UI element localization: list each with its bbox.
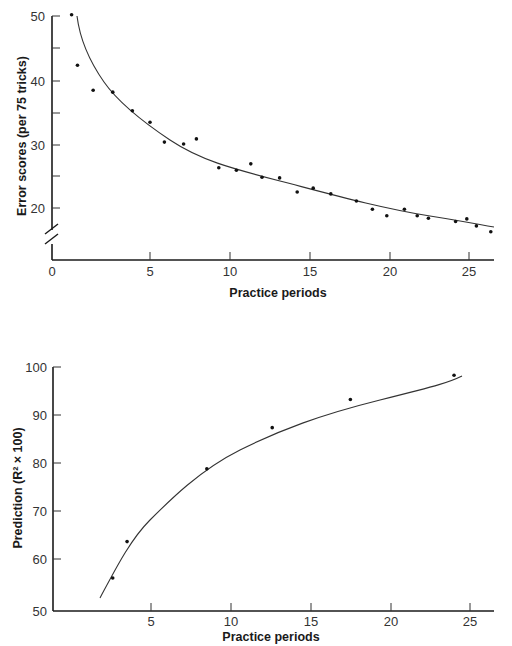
data-point xyxy=(91,88,95,92)
top-y-tick-label: 20 xyxy=(31,201,45,216)
top-y-tick-label: 50 xyxy=(31,9,45,24)
bottom-y-axis-title: Prediction (R² × 100) xyxy=(11,427,25,548)
data-point xyxy=(465,217,469,221)
data-point xyxy=(311,186,315,190)
data-point xyxy=(249,162,253,166)
top-x-tick-label: 5 xyxy=(146,264,153,279)
data-point xyxy=(270,426,274,430)
data-point xyxy=(70,13,74,17)
top-x-tick-label: 0 xyxy=(48,264,55,279)
data-point xyxy=(385,214,389,218)
data-point xyxy=(111,576,115,580)
data-point xyxy=(452,373,456,377)
data-point xyxy=(205,467,209,471)
top-y-axis-title: Error scores (per 75 tricks) xyxy=(15,56,29,216)
data-point xyxy=(403,207,407,211)
data-point xyxy=(76,63,80,67)
bottom-x-ticks: 5 10 15 20 25 xyxy=(147,603,477,629)
data-point xyxy=(195,137,199,141)
data-point xyxy=(295,190,299,194)
top-x-axis-title: Practice periods xyxy=(229,286,326,300)
bottom-chart: 100 90 80 70 60 50 5 10 15 20 25 Practic… xyxy=(11,360,494,644)
data-point xyxy=(131,109,135,113)
bottom-x-tick-label: 5 xyxy=(147,614,154,629)
bottom-y-tick-label: 80 xyxy=(33,456,47,471)
bottom-y-tick-label: 50 xyxy=(33,604,47,619)
data-point xyxy=(260,175,264,179)
bottom-x-tick-label: 10 xyxy=(224,614,238,629)
top-chart: 50 40 30 20 0 5 10 15 20 25 Practice per… xyxy=(15,9,494,300)
data-point xyxy=(475,224,479,228)
bottom-x-axis-title: Practice periods xyxy=(222,630,319,644)
data-point xyxy=(415,214,419,218)
data-point xyxy=(278,176,282,180)
data-point xyxy=(148,120,152,124)
bottom-y-tick-label: 100 xyxy=(25,360,47,375)
data-point xyxy=(329,192,333,196)
bottom-y-tick-label: 60 xyxy=(33,552,47,567)
top-x-tick-label: 20 xyxy=(383,264,397,279)
bottom-y-tick-label: 70 xyxy=(33,504,47,519)
data-point xyxy=(111,90,115,94)
bottom-y-tick-label: 90 xyxy=(33,408,47,423)
data-point xyxy=(489,230,493,234)
data-point xyxy=(217,166,221,170)
data-point xyxy=(182,142,186,146)
top-y-tick-label: 30 xyxy=(31,138,45,153)
top-x-tick-label: 10 xyxy=(223,264,237,279)
bottom-data-points xyxy=(111,373,456,579)
top-y-ticks: 50 40 30 20 xyxy=(31,9,60,216)
figure: 50 40 30 20 0 5 10 15 20 25 Practice per… xyxy=(0,0,512,646)
bottom-x-tick-label: 25 xyxy=(463,614,477,629)
data-point xyxy=(349,398,353,402)
bottom-x-tick-label: 15 xyxy=(304,614,318,629)
bottom-y-ticks: 100 90 80 70 60 50 xyxy=(25,360,61,619)
data-point xyxy=(235,168,239,172)
top-fit-curve xyxy=(77,16,494,227)
top-x-tick-label: 15 xyxy=(303,264,317,279)
data-point xyxy=(454,220,458,224)
data-point xyxy=(371,207,375,211)
top-data-points xyxy=(70,13,493,234)
bottom-x-tick-label: 20 xyxy=(384,614,398,629)
data-point xyxy=(125,540,129,544)
data-point xyxy=(427,216,431,220)
data-point xyxy=(355,199,359,203)
top-x-tick-label: 25 xyxy=(462,264,476,279)
data-point xyxy=(163,140,167,144)
top-x-ticks: 0 5 10 15 20 25 xyxy=(48,252,476,279)
top-y-tick-label: 40 xyxy=(31,74,45,89)
bottom-fit-curve xyxy=(100,376,462,598)
